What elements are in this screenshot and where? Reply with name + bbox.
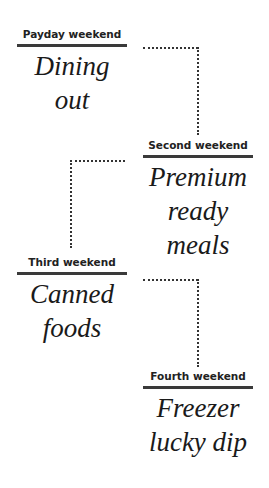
dotted-connector (143, 279, 198, 281)
dotted-connector (197, 279, 199, 367)
step-third-weekend: Third weekend Canned foods (17, 255, 127, 345)
dotted-connector (197, 47, 199, 135)
step-payday-weekend: Payday weekend Dining out (17, 27, 127, 117)
step-label: Fourth weekend (143, 369, 253, 383)
step-title: Freezer lucky dip (143, 391, 253, 459)
step-label: Third weekend (17, 255, 127, 269)
dotted-connector (70, 160, 72, 248)
dotted-connector (70, 160, 125, 162)
step-title: Dining out (17, 49, 127, 117)
step-second-weekend: Second weekend Premium ready meals (143, 138, 253, 262)
divider (143, 386, 253, 389)
step-title: Canned foods (17, 277, 127, 345)
dotted-connector (143, 47, 198, 49)
step-fourth-weekend: Fourth weekend Freezer lucky dip (143, 369, 253, 459)
divider (17, 44, 127, 47)
divider (17, 272, 127, 275)
step-label: Second weekend (143, 138, 253, 152)
step-title: Premium ready meals (143, 160, 253, 262)
divider (143, 155, 253, 158)
step-label: Payday weekend (17, 27, 127, 41)
